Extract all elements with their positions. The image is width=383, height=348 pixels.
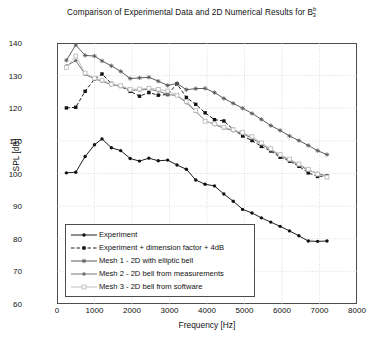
series-2: [64, 43, 329, 157]
legend-item-3[interactable]: Mesh 2 - 2D bell from measurements: [69, 267, 250, 280]
legend-label: Experiment: [99, 229, 137, 241]
x-tick-4000: 4000: [187, 306, 227, 315]
x-tick-1000: 1000: [75, 306, 115, 315]
legend-label: Mesh 3 - 2D bell from software: [99, 281, 202, 293]
legend-item-4[interactable]: Mesh 3 - 2D bell from software: [69, 280, 250, 293]
y-tick-140: 140: [0, 39, 22, 48]
chart-legend: ExperimentExperiment + dimension factor …: [65, 224, 255, 297]
legend-item-2[interactable]: Mesh 1 - 2D with elliptic bell: [69, 254, 250, 267]
x-tick-3000: 3000: [150, 306, 190, 315]
series-4: [64, 54, 328, 179]
y-tick-70: 70: [0, 267, 22, 276]
chart-title-text: Comparison of Experimental Data and 2D N…: [67, 8, 313, 17]
y-tick-120: 120: [0, 104, 22, 113]
y-axis-label: SPL [dB]: [11, 115, 21, 195]
legend-label: Experiment + dimension factor + 4dB: [99, 242, 224, 254]
legend-item-0[interactable]: Experiment: [69, 228, 250, 241]
x-tick-5000: 5000: [225, 306, 265, 315]
legend-label: Mesh 2 - 2D bell from measurements: [99, 268, 224, 280]
x-tick-0: 0: [37, 306, 77, 315]
y-tick-60: 60: [0, 300, 22, 309]
y-tick-90: 90: [0, 202, 22, 211]
legend-symbol-filled-dot-icon: [69, 268, 99, 280]
x-tick-8000: 8000: [337, 306, 377, 315]
legend-symbol-filled-square-icon: [69, 242, 99, 254]
chart-title: Comparison of Experimental Data and 2D N…: [0, 6, 383, 18]
legend-item-1[interactable]: Experiment + dimension factor + 4dB: [69, 241, 250, 254]
legend-label: Mesh 1 - 2D with elliptic bell: [99, 255, 193, 267]
x-tick-2000: 2000: [112, 306, 152, 315]
legend-symbol-open-square-icon: [69, 281, 99, 293]
y-tick-80: 80: [0, 234, 22, 243]
y-tick-110: 110: [0, 136, 22, 145]
x-axis-label: Frequency [Hz]: [57, 320, 357, 330]
x-tick-6000: 6000: [262, 306, 302, 315]
legend-symbol-filled-dot-icon: [69, 229, 99, 241]
y-tick-130: 130: [0, 71, 22, 80]
legend-symbol-star-icon: [69, 255, 99, 267]
chart-figure: Comparison of Experimental Data and 2D N…: [0, 0, 383, 348]
chart-title-subscript: 3: [313, 12, 316, 18]
x-tick-7000: 7000: [300, 306, 340, 315]
y-tick-100: 100: [0, 169, 22, 178]
